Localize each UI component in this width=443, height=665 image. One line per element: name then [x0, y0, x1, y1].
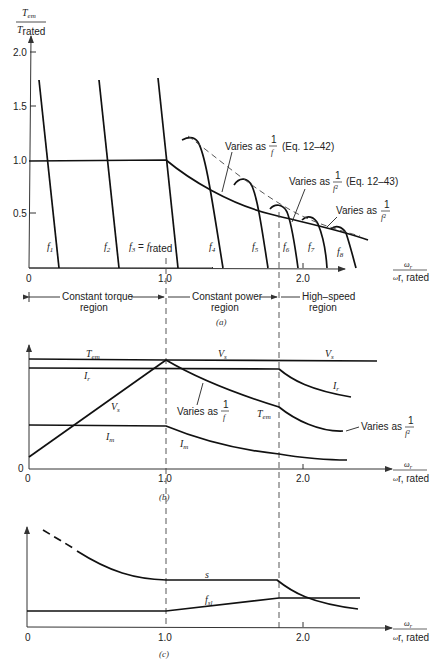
svg-text:1: 1 — [223, 399, 229, 410]
panel-c-x-ticks: 0 1.0 2.0 — [25, 632, 310, 643]
svg-text:ωr: ωr — [404, 619, 413, 629]
region-constant-power: Constant power region — [192, 291, 263, 313]
curve-f3 — [158, 78, 178, 268]
panel-a: Tem Trated 2.0 1.5 1.0 0.5 0 1.0 2 — [13, 7, 429, 327]
svg-text:1: 1 — [408, 415, 414, 426]
svg-text:1: 1 — [335, 170, 341, 181]
svg-text:f8: f8 — [337, 246, 344, 259]
svg-text:Ir: Ir — [332, 380, 339, 393]
svg-text:region: region — [80, 302, 108, 313]
svg-text:Tem: Tem — [257, 408, 271, 421]
svg-text:f: f — [223, 413, 227, 422]
curve-f4 — [182, 138, 223, 268]
svg-text:1.0: 1.0 — [158, 273, 172, 284]
panel-a-curve-labels: f1 f2 f3 = frated f4 f5 f6 f7 f8 — [47, 241, 344, 259]
svg-text:Im: Im — [105, 431, 114, 444]
svg-text:1.0: 1.0 — [158, 473, 172, 484]
svg-text:ωr, rated: ωr, rated — [393, 272, 429, 283]
svg-text:2.0: 2.0 — [13, 47, 27, 58]
panel-b-y-zero: 0 — [18, 463, 24, 474]
svg-text:f3 = frated: f3 = frated — [129, 241, 172, 254]
svg-text:f5: f5 — [252, 241, 259, 254]
svg-text:ωr: ωr — [404, 260, 413, 270]
svg-text:Vs: Vs — [218, 348, 227, 361]
svg-text:1.5: 1.5 — [13, 101, 27, 112]
curve-Tem-Vs-flat — [29, 359, 377, 361]
svg-text:region: region — [211, 302, 239, 313]
svg-text:0.5: 0.5 — [13, 208, 27, 219]
region-constant-torque: Constant torque region — [62, 291, 134, 313]
curve-s-extrapolated — [43, 530, 73, 548]
svg-text:Im: Im — [179, 438, 188, 451]
panel-c-x-label: ωr ωr, rated — [393, 619, 429, 643]
curve-s — [77, 551, 358, 609]
svg-text:f²: f² — [333, 184, 338, 193]
svg-text:Ir: Ir — [83, 370, 90, 383]
panel-b-caption: (b) — [159, 492, 170, 502]
annotation-b-varies-1-over-f: Varies as 1 f — [177, 383, 229, 422]
svg-text:Tem: Tem — [22, 7, 36, 20]
panel-a-y-axis — [29, 36, 31, 268]
svg-text:(Eq. 12–42): (Eq. 12–42) — [282, 141, 334, 152]
svg-text:2.0: 2.0 — [296, 273, 310, 284]
panel-a-x-label: ωr ωr, rated — [393, 260, 429, 283]
curve-f1 — [39, 80, 59, 268]
svg-text:Vs: Vs — [325, 348, 334, 361]
svg-text:1: 1 — [271, 134, 277, 145]
svg-text:ωr, rated: ωr, rated — [393, 473, 429, 484]
region-high-speed: High–speed region — [302, 291, 355, 313]
panel-c-caption: (c) — [159, 649, 169, 659]
torque-envelope-curve — [29, 160, 368, 240]
svg-text:0: 0 — [25, 632, 31, 643]
svg-text:(Eq. 12–43): (Eq. 12–43) — [346, 176, 398, 187]
panel-c-curve-labels: s fsl — [205, 569, 213, 607]
svg-text:ωr, rated: ωr, rated — [393, 632, 429, 643]
svg-text:fsl: fsl — [205, 594, 213, 607]
svg-text:2.0: 2.0 — [296, 632, 310, 643]
svg-text:0: 0 — [25, 473, 31, 484]
svg-text:0: 0 — [26, 273, 32, 284]
curve-Tem-falling — [166, 360, 343, 431]
curve-f2 — [99, 80, 119, 268]
curve-Vs-ramp — [29, 360, 166, 457]
svg-text:Vs: Vs — [111, 401, 120, 414]
svg-text:f6: f6 — [283, 241, 290, 254]
svg-text:High–speed: High–speed — [302, 291, 355, 302]
annotation-b-varies-1-over-f2: Varies as 1 f² — [346, 415, 414, 438]
svg-text:f4: f4 — [209, 241, 216, 254]
panel-b-x-ticks: 0 1.0 2.0 — [25, 473, 310, 484]
panel-a-x-axis — [29, 268, 345, 269]
panel-c: 0 1.0 2.0 ωr ωr, rated s fsl (c) — [25, 527, 429, 659]
panel-b-curve-labels: Tem Vs Vs Ir Ir Vs Tem Im Im — [83, 348, 339, 451]
svg-text:Trated: Trated — [17, 24, 45, 37]
svg-text:Varies as: Varies as — [336, 205, 377, 216]
svg-text:f1: f1 — [47, 241, 53, 254]
svg-text:region: region — [309, 302, 337, 313]
curve-fsl — [27, 598, 360, 611]
svg-text:Constant power: Constant power — [192, 291, 263, 302]
panel-c-x-axis — [27, 627, 392, 628]
svg-text:Varies as: Varies as — [361, 421, 402, 432]
svg-text:f²: f² — [381, 213, 386, 222]
panel-a-y-label: Tem Trated — [16, 7, 46, 37]
svg-text:ωr: ωr — [404, 460, 413, 470]
svg-text:f: f — [271, 148, 275, 157]
panel-a-caption: (a) — [216, 317, 227, 327]
panel-b: 0 0 1.0 2.0 ωr ωr, rated Tem Vs Vs Ir Ir… — [18, 345, 429, 502]
svg-text:s: s — [205, 569, 209, 580]
panel-b-x-label: ωr ωr, rated — [393, 460, 429, 484]
svg-text:1.0: 1.0 — [13, 155, 27, 166]
figure-canvas: Tem Trated 2.0 1.5 1.0 0.5 0 1.0 2 — [0, 0, 443, 665]
annotation-varies-1-over-f2: Varies as 1 f² — [326, 199, 390, 228]
svg-text:Constant torque: Constant torque — [62, 291, 134, 302]
svg-text:Varies as: Varies as — [225, 141, 266, 152]
svg-text:f²: f² — [405, 429, 410, 438]
svg-text:1: 1 — [384, 199, 390, 210]
svg-text:f7: f7 — [308, 241, 315, 254]
svg-text:f2: f2 — [104, 241, 111, 254]
svg-text:2.0: 2.0 — [296, 473, 310, 484]
svg-text:1.0: 1.0 — [158, 632, 172, 643]
svg-text:Varies as: Varies as — [177, 406, 218, 417]
svg-text:Varies as: Varies as — [289, 176, 330, 187]
panel-a-y-ticks: 2.0 1.5 1.0 0.5 — [13, 47, 36, 219]
